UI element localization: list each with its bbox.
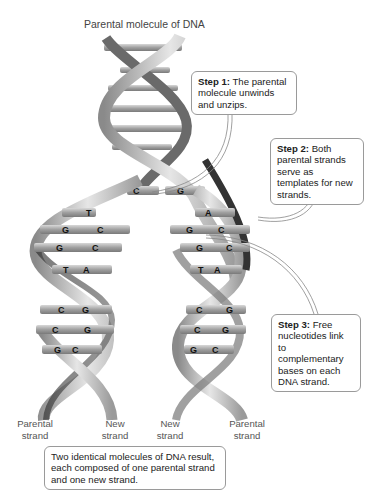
label-line2: strand: [222, 430, 272, 442]
base-g: G: [190, 345, 197, 355]
right-base-pair: CG: [180, 325, 246, 335]
left-base-pair: CG: [40, 305, 112, 315]
left-base-pair: TA: [52, 265, 112, 275]
left-base-pair: T: [62, 208, 96, 218]
base-c: C: [212, 345, 219, 355]
base-g: G: [82, 305, 89, 315]
label-left-parental-strand: Parental strand: [10, 418, 60, 441]
base-c: C: [72, 345, 79, 355]
left-base-bar: [40, 225, 130, 234]
base-c: C: [97, 225, 104, 235]
result-callout: Two identical molecules of DNA result, e…: [44, 446, 226, 490]
label-right-new-strand: New strand: [150, 418, 190, 441]
label-line1: Parental: [222, 418, 272, 430]
left-base-bar: [36, 325, 114, 334]
step2-callout: Step 2: Both parental strands serve as t…: [270, 138, 364, 205]
right-base-bar: [180, 243, 250, 252]
left-base-pair: CG: [36, 325, 114, 335]
label-line2: strand: [95, 430, 135, 442]
left-daughter-helix: TGCGCTACGCGGC: [34, 180, 140, 420]
right-daughter-helix: AGCGCTACGCGGC: [170, 160, 250, 420]
base-a: A: [214, 265, 221, 275]
base-a: A: [83, 265, 90, 275]
result-text: Two identical molecules of DNA result, e…: [51, 451, 215, 485]
label-left-new-strand: New strand: [95, 418, 135, 441]
right-base-bar: [180, 325, 246, 334]
step1-heading: Step 1:: [198, 76, 230, 87]
label-line1: New: [150, 418, 190, 430]
left-base-pair: GC: [34, 243, 122, 253]
base-g: G: [84, 325, 91, 335]
base-g: G: [196, 243, 203, 253]
step1-callout: Step 1: The parental molecule unwinds an…: [191, 71, 297, 115]
base-c: C: [92, 243, 99, 253]
right-base-pair: GC: [184, 345, 234, 355]
base-a: A: [205, 208, 212, 218]
step3-callout: Step 3: Free nucleotides link to complem…: [271, 314, 361, 392]
diagram-title: Parental molecule of DNA: [84, 18, 205, 30]
step2-heading: Step 2:: [277, 143, 309, 154]
base-c: C: [218, 225, 225, 235]
base-c: C: [226, 243, 233, 253]
left-base-bar: [52, 265, 112, 274]
right-base-bar: [195, 208, 235, 217]
fork-bases: C G: [127, 186, 205, 196]
step3-heading: Step 3:: [278, 319, 310, 330]
right-base-pair: TA: [190, 265, 242, 275]
left-base-pair: GC: [40, 225, 130, 235]
base-c: C: [58, 305, 65, 315]
base-g: G: [222, 325, 229, 335]
right-base-pair: CG: [186, 305, 246, 315]
right-base-bar: [186, 305, 246, 314]
label-line1: Parental: [10, 418, 60, 430]
right-base-pair: GC: [180, 243, 250, 253]
left-base-pair: GC: [42, 345, 102, 355]
label-line1: New: [95, 418, 135, 430]
base-t: T: [198, 265, 204, 275]
base-t: T: [86, 208, 92, 218]
base-c: C: [196, 305, 203, 315]
base-g: G: [54, 345, 61, 355]
label-right-parental-strand: Parental strand: [222, 418, 272, 441]
base-g: G: [186, 225, 193, 235]
base-g: G: [56, 243, 63, 253]
label-line2: strand: [150, 430, 190, 442]
base-g: G: [62, 225, 69, 235]
left-base-bar: [40, 305, 112, 314]
right-base-pair: A: [195, 208, 235, 218]
right-base-pair: GC: [170, 225, 250, 235]
base-g: G: [226, 305, 233, 315]
left-base-bar: [34, 243, 122, 252]
base-c: C: [52, 325, 59, 335]
base-c: C: [194, 325, 201, 335]
base-t: T: [63, 265, 69, 275]
right-base-bar: [170, 225, 250, 234]
label-line2: strand: [10, 430, 60, 442]
